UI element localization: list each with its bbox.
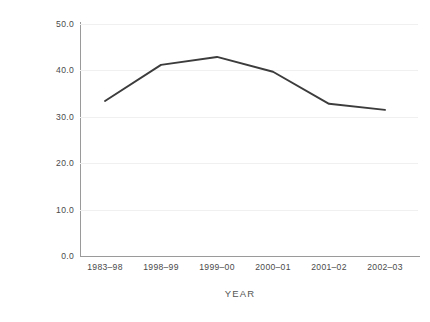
- x-axis-title: YEAR: [80, 288, 400, 299]
- data-series-line: [0, 0, 430, 322]
- line-chart: PERCENTAGE 0.010.020.030.040.050.0 1983–…: [0, 0, 430, 322]
- series-polyline: [105, 57, 385, 110]
